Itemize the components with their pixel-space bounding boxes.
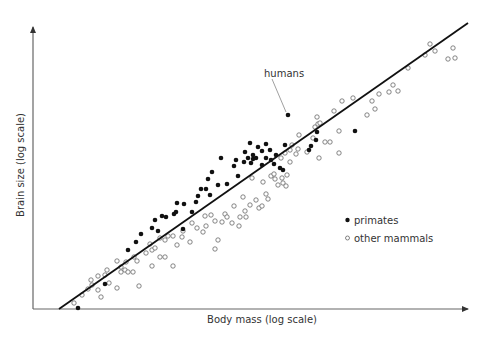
mammal-point <box>273 177 277 181</box>
legend: primates other mammals <box>345 215 433 244</box>
mammal-point <box>209 213 213 217</box>
primate-point <box>76 306 81 311</box>
regression-line <box>59 23 468 309</box>
mammal-point <box>213 247 217 251</box>
primate-point <box>204 187 209 192</box>
mammal-point <box>188 240 192 244</box>
primate-point <box>225 182 230 187</box>
mammal-point <box>190 221 194 225</box>
primate-point <box>153 218 158 223</box>
mammal-point <box>175 243 179 247</box>
mammal-point <box>453 56 457 60</box>
mammal-point <box>387 90 391 94</box>
primate-point <box>206 177 211 182</box>
mammal-point <box>340 99 344 103</box>
primate-point <box>236 174 241 179</box>
mammal-point <box>213 219 217 223</box>
mammal-point <box>105 268 109 272</box>
mammal-point <box>280 176 284 180</box>
legend-other-mammals-label: other mammals <box>354 233 433 244</box>
mammal-point <box>264 192 268 196</box>
primate-point <box>254 156 259 161</box>
mammal-point <box>370 99 374 103</box>
mammal-point <box>216 238 220 242</box>
mammal-point <box>203 214 207 218</box>
mammal-point <box>377 92 381 96</box>
mammal-point <box>163 255 167 259</box>
mammal-point <box>135 259 139 263</box>
primate-point <box>208 193 213 198</box>
mammal-point <box>158 255 162 259</box>
primate-point <box>234 158 239 163</box>
primate-point <box>174 210 179 215</box>
primate-point <box>160 214 165 219</box>
primate-point <box>353 129 358 134</box>
mammal-point <box>250 176 254 180</box>
mammal-point <box>365 113 369 117</box>
primate-point <box>181 227 186 232</box>
scatter-chart: humans primates other mammals Body mass … <box>0 0 490 341</box>
primate-point <box>281 168 286 173</box>
primate-point <box>272 162 277 167</box>
primate-point <box>246 156 251 161</box>
primate-point <box>307 148 312 153</box>
mammal-point <box>451 46 455 50</box>
x-axis-label: Body mass (log scale) <box>207 314 317 325</box>
mammal-point <box>171 264 175 268</box>
mammal-point <box>96 274 100 278</box>
primate-point <box>268 148 273 153</box>
primate-point <box>164 215 169 220</box>
primate-point <box>256 145 261 150</box>
primate-point <box>139 232 144 237</box>
primate-point <box>286 113 291 118</box>
mammal-point <box>72 301 76 305</box>
mammal-point <box>323 140 327 144</box>
primate-point <box>264 142 269 147</box>
primate-point <box>248 141 253 146</box>
mammal-point <box>351 96 355 100</box>
primate-point <box>243 150 248 155</box>
mammal-point <box>230 221 234 225</box>
primate-point <box>196 194 201 199</box>
primate-point <box>134 240 139 245</box>
mammal-point <box>279 156 283 160</box>
mammal-point <box>284 184 288 188</box>
mammal-point <box>433 49 437 53</box>
mammal-point <box>317 156 321 160</box>
mammal-point <box>337 129 341 133</box>
legend-open-circle-icon <box>346 236 350 240</box>
primate-point <box>150 226 155 231</box>
mammal-point <box>272 172 276 176</box>
mammal-point <box>241 195 245 199</box>
mammal-point <box>243 209 247 213</box>
mammal-point <box>204 224 208 228</box>
mammal-point <box>89 278 93 282</box>
mammal-point <box>131 270 135 274</box>
mammal-point <box>232 204 236 208</box>
mammal-point <box>244 215 248 219</box>
mammal-point <box>195 226 199 230</box>
primate-point <box>232 164 237 169</box>
primate-point <box>216 183 221 188</box>
primate-point <box>194 200 199 205</box>
mammal-point <box>296 147 300 151</box>
mammal-point <box>260 204 264 208</box>
primate-point <box>264 156 269 161</box>
mammal-point <box>144 251 148 255</box>
y-axis-label: Brain size (log scale) <box>15 113 26 217</box>
primate-point <box>249 161 254 166</box>
mammal-point <box>115 259 119 263</box>
legend-primates-label: primates <box>354 215 398 226</box>
primate-point <box>126 248 131 253</box>
mammal-point <box>220 220 224 224</box>
mammal-point <box>266 197 270 201</box>
mammal-point <box>373 107 377 111</box>
mammal-point <box>126 270 130 274</box>
mammal-point <box>391 83 395 87</box>
mammal-point <box>150 264 154 268</box>
primate-point <box>260 149 265 154</box>
primates-points <box>76 113 358 311</box>
mammal-point <box>315 115 319 119</box>
mammal-point <box>285 173 289 177</box>
legend-filled-circle-icon <box>345 218 349 222</box>
